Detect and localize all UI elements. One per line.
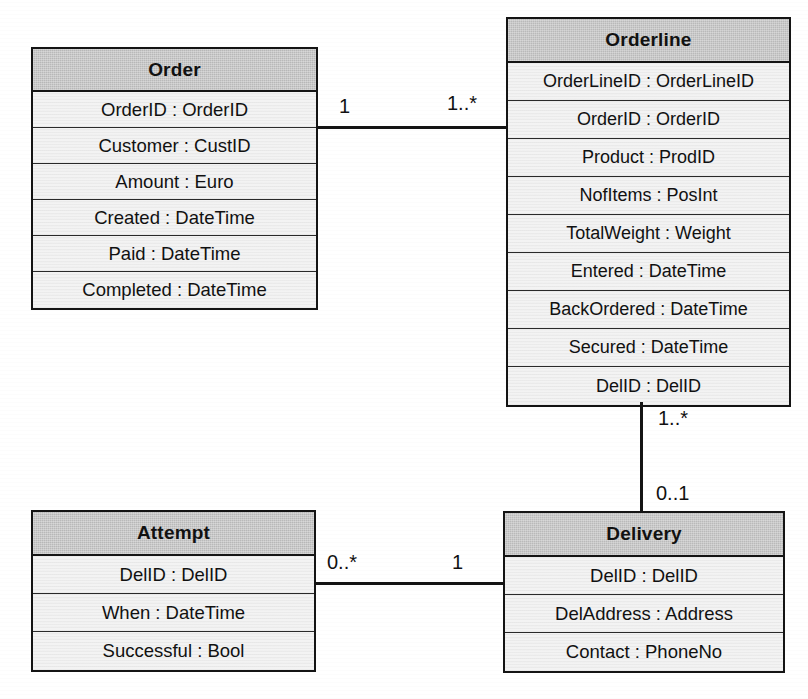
attribute-text: NofItems : PosInt — [579, 185, 717, 206]
multiplicity-label-delivery-top: 0..1 — [656, 483, 689, 503]
attribute-row: When : DateTime — [33, 594, 314, 632]
attribute-compartment-orderline: OrderLineID : OrderLineID OrderID : Orde… — [508, 63, 789, 405]
attribute-text: Entered : DateTime — [571, 261, 726, 282]
attribute-text: When : DateTime — [102, 602, 245, 624]
attribute-row: DelID : DelID — [508, 367, 789, 405]
attribute-text: Successful : Bool — [103, 640, 245, 662]
multiplicity-label-delivery-left: 1 — [452, 552, 463, 572]
multiplicity-label-attempt-end: 0..* — [327, 552, 357, 572]
attribute-row: Secured : DateTime — [508, 329, 789, 367]
attribute-row: DelID : DelID — [505, 557, 783, 595]
class-name-order: Order — [148, 59, 201, 81]
class-box-attempt[interactable]: Attempt DelID : DelID When : DateTime Su… — [31, 510, 316, 672]
attribute-row: DelID : DelID — [33, 556, 314, 594]
attribute-compartment-delivery: DelID : DelID DelAddress : Address Conta… — [505, 557, 783, 671]
class-box-order[interactable]: Order OrderID : OrderID Customer : CustI… — [31, 47, 318, 310]
attribute-text: Paid : DateTime — [109, 243, 241, 265]
attribute-text: Product : ProdID — [582, 147, 715, 168]
attribute-text: OrderLineID : OrderLineID — [543, 71, 754, 92]
attribute-row: NofItems : PosInt — [508, 177, 789, 215]
class-name-attempt: Attempt — [137, 522, 210, 544]
attribute-text: Created : DateTime — [94, 207, 255, 229]
class-box-orderline[interactable]: Orderline OrderLineID : OrderLineID Orde… — [506, 17, 791, 407]
attribute-row: TotalWeight : Weight — [508, 215, 789, 253]
attribute-text: OrderID : OrderID — [101, 99, 248, 121]
class-header-delivery: Delivery — [505, 513, 783, 557]
uml-class-diagram-canvas: Order OrderID : OrderID Customer : CustI… — [0, 0, 808, 699]
attribute-text: Amount : Euro — [115, 171, 233, 193]
attribute-row: Product : ProdID — [508, 139, 789, 177]
attribute-row: DelAddress : Address — [505, 595, 783, 633]
attribute-row: Contact : PhoneNo — [505, 633, 783, 671]
attribute-row: Successful : Bool — [33, 632, 314, 670]
attribute-text: DelAddress : Address — [555, 603, 733, 625]
attribute-text: DelID : DelID — [596, 376, 701, 397]
attribute-row: OrderID : OrderID — [508, 101, 789, 139]
attribute-row: OrderLineID : OrderLineID — [508, 63, 789, 101]
class-name-delivery: Delivery — [606, 523, 682, 545]
attribute-row: Amount : Euro — [33, 164, 316, 200]
attribute-text: Completed : DateTime — [82, 279, 266, 301]
attribute-text: Secured : DateTime — [569, 337, 728, 358]
class-name-orderline: Orderline — [605, 29, 691, 51]
attribute-row: Paid : DateTime — [33, 236, 316, 272]
class-header-order: Order — [33, 49, 316, 92]
attribute-compartment-order: OrderID : OrderID Customer : CustID Amou… — [33, 92, 316, 308]
attribute-compartment-attempt: DelID : DelID When : DateTime Successful… — [33, 556, 314, 670]
attribute-text: TotalWeight : Weight — [566, 223, 730, 244]
attribute-row: Completed : DateTime — [33, 272, 316, 308]
association-line-order-orderline — [317, 126, 508, 129]
attribute-text: Contact : PhoneNo — [566, 641, 722, 663]
attribute-row: OrderID : OrderID — [33, 92, 316, 128]
class-header-orderline: Orderline — [508, 19, 789, 63]
association-line-orderline-delivery — [640, 402, 643, 513]
multiplicity-label-orderline-bottom: 1..* — [658, 408, 688, 428]
class-box-delivery[interactable]: Delivery DelID : DelID DelAddress : Addr… — [503, 511, 785, 673]
attribute-text: DelID : DelID — [590, 565, 698, 587]
attribute-row: Entered : DateTime — [508, 253, 789, 291]
multiplicity-label-order-end: 1 — [339, 96, 350, 116]
attribute-text: OrderID : OrderID — [577, 109, 720, 130]
attribute-text: Customer : CustID — [98, 135, 250, 157]
multiplicity-label-orderline-end: 1..* — [447, 93, 477, 113]
attribute-row: BackOrdered : DateTime — [508, 291, 789, 329]
attribute-row: Created : DateTime — [33, 200, 316, 236]
attribute-row: Customer : CustID — [33, 128, 316, 164]
attribute-text: DelID : DelID — [120, 564, 228, 586]
class-header-attempt: Attempt — [33, 512, 314, 556]
association-line-attempt-delivery — [314, 582, 505, 585]
attribute-text: BackOrdered : DateTime — [549, 299, 747, 320]
